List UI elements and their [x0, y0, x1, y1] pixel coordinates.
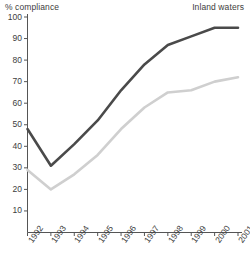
chart-container: % compliance Inland waters 1020304050607… [0, 0, 250, 263]
y-axis-tick-label: 10 [0, 205, 22, 215]
y-axis-tick-label: 70 [0, 76, 22, 86]
y-axis-tick-label: 40 [0, 141, 22, 151]
y-axis-tick-label: 80 [0, 55, 22, 65]
y-axis-tick-label: 90 [0, 33, 22, 43]
y-axis-tick-label: 20 [0, 184, 22, 194]
y-axis-tick-label: 60 [0, 98, 22, 108]
chart-series-group [28, 28, 239, 190]
y-axis-tick-label: 30 [0, 162, 22, 172]
chart-line-light-series [28, 77, 239, 189]
chart-line-dark-series [28, 28, 239, 166]
chart-axes [24, 14, 242, 236]
y-axis-tick-label: 50 [0, 119, 22, 129]
y-axis-tick-label: 100 [0, 12, 22, 22]
